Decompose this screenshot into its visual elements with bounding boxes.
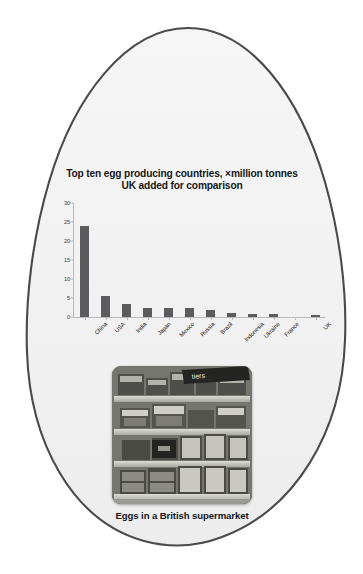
bar-chart: Top ten egg producing countries, ×millio… bbox=[52, 168, 332, 360]
x-tick-label: India bbox=[134, 321, 147, 334]
x-tick-mark bbox=[274, 317, 275, 320]
y-tick-mark bbox=[70, 260, 73, 261]
svg-text:tiers: tiers bbox=[191, 372, 205, 380]
x-tick-label: China bbox=[93, 321, 108, 336]
photo-caption: Eggs in a British supermarket bbox=[52, 510, 312, 521]
x-tick-label: Brazil bbox=[219, 321, 233, 335]
x-tick-mark bbox=[106, 317, 107, 320]
y-tick-mark bbox=[70, 317, 73, 318]
x-tick-label: Russia bbox=[199, 321, 216, 338]
x-tick-mark bbox=[316, 317, 317, 320]
x-tick-mark bbox=[169, 317, 170, 320]
y-tick-label: 25 bbox=[52, 219, 70, 225]
y-tick-label: 30 bbox=[52, 200, 70, 206]
x-tick-label: Ukraine bbox=[262, 321, 280, 339]
x-tick-label: France bbox=[283, 321, 300, 338]
figure-canvas: Top ten egg producing countries, ×millio… bbox=[0, 0, 363, 574]
x-tick-mark bbox=[190, 317, 191, 320]
y-axis-tick-labels: 051015202530 bbox=[52, 201, 70, 319]
y-tick-label: 5 bbox=[52, 295, 70, 301]
x-tick-label: USA bbox=[113, 321, 126, 334]
chart-title-line-2: UK added for comparison bbox=[56, 180, 308, 192]
bar-series bbox=[74, 203, 326, 317]
y-tick-mark bbox=[70, 241, 73, 242]
x-tick-mark bbox=[295, 317, 296, 320]
x-tick-mark bbox=[211, 317, 212, 320]
bar bbox=[143, 308, 153, 318]
bar bbox=[101, 296, 111, 317]
x-tick-label: Indonesia bbox=[243, 321, 265, 343]
bar bbox=[80, 226, 90, 317]
bar bbox=[185, 308, 195, 317]
x-tick-label: Japan bbox=[156, 321, 171, 336]
x-tick-mark bbox=[148, 317, 149, 320]
y-tick-label: 10 bbox=[52, 276, 70, 282]
y-tick-label: 0 bbox=[52, 314, 70, 320]
y-tick-mark bbox=[70, 203, 73, 204]
x-tick-mark bbox=[232, 317, 233, 320]
x-axis-tick-labels: ChinaUSAIndiaJapanMexicoRussiaBrazilIndo… bbox=[74, 321, 330, 361]
photo-image: tiers bbox=[112, 366, 252, 504]
y-tick-label: 15 bbox=[52, 257, 70, 263]
bar bbox=[164, 308, 174, 318]
x-tick-label: UK bbox=[322, 321, 332, 331]
y-tick-mark bbox=[70, 279, 73, 280]
y-tick-mark bbox=[70, 298, 73, 299]
x-tick-mark bbox=[253, 317, 254, 320]
y-tick-label: 20 bbox=[52, 238, 70, 244]
y-tick-mark bbox=[70, 222, 73, 223]
bar bbox=[122, 304, 132, 317]
x-axis-line bbox=[73, 317, 325, 318]
chart-plot-area: 051015202530 ChinaUSAIndiaJapanMexicoRus… bbox=[52, 201, 332, 361]
x-tick-mark bbox=[85, 317, 86, 320]
chart-title-line-1: Top ten egg producing countries, ×millio… bbox=[56, 168, 308, 180]
x-tick-label: Mexico bbox=[178, 321, 195, 338]
supermarket-photo: tiers bbox=[112, 366, 252, 504]
x-tick-mark bbox=[127, 317, 128, 320]
bar bbox=[206, 310, 216, 317]
chart-title: Top ten egg producing countries, ×millio… bbox=[56, 168, 308, 193]
